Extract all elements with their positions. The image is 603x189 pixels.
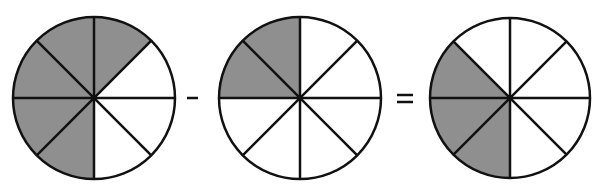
fraction-diagram (0, 0, 603, 189)
diagram-svg (0, 0, 603, 189)
center-dot (91, 95, 97, 101)
center-dot (297, 95, 303, 101)
subtrahend-circle (219, 17, 381, 179)
center-dot (507, 95, 513, 101)
difference-circle (430, 18, 590, 178)
minuend-circle (13, 17, 175, 179)
